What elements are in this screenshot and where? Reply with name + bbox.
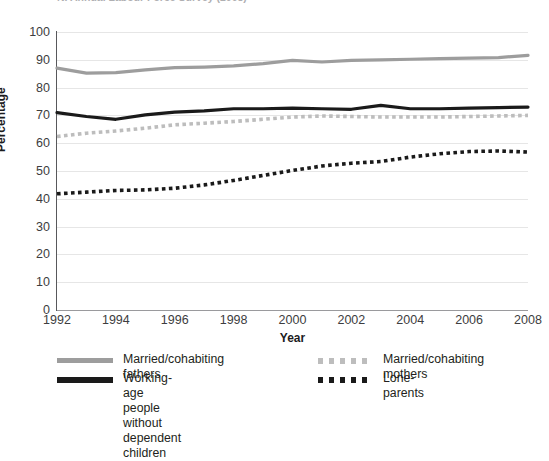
x-tick-label: 1996 [145, 313, 205, 327]
legend-label: Lone-parents [383, 371, 424, 401]
x-tick-label: 2000 [263, 313, 323, 327]
x-tick-label: 2002 [321, 313, 381, 327]
gridline [57, 199, 528, 200]
x-tick-label: 2008 [498, 313, 549, 327]
x-tick-label: 1992 [27, 313, 87, 327]
y-tick-label: 70 [6, 109, 50, 121]
gridline [57, 143, 528, 144]
y-axis-title: Percentage [0, 87, 8, 152]
x-tick-label: 2004 [380, 313, 440, 327]
gridline [57, 171, 528, 172]
gridline [57, 227, 528, 228]
y-tick-label: 10 [6, 276, 50, 288]
plot-area [57, 32, 528, 310]
solid-gray-line-key [57, 358, 113, 363]
dotted-gray-line-key [317, 358, 373, 364]
y-tick-label: 40 [6, 193, 50, 205]
y-tick-label: 20 [6, 248, 50, 260]
gridline [57, 32, 528, 33]
y-axis-line [56, 31, 57, 311]
dotted-black-line-key [317, 377, 373, 383]
gridline [57, 282, 528, 283]
y-tick-label: 90 [6, 54, 50, 66]
legend-label: Working-age people without dependent chi… [123, 371, 181, 461]
x-tick-label: 1998 [204, 313, 264, 327]
chart-title-text: NI Annual Labour Force Survey (2008) [57, 0, 477, 3]
gridline [57, 60, 528, 61]
gridline [57, 88, 528, 89]
chart-title-clipped: NI Annual Labour Force Survey (2008) [57, 0, 477, 3]
y-tick-label: 50 [6, 165, 50, 177]
gridline [57, 115, 528, 116]
y-tick-label: 60 [6, 137, 50, 149]
x-axis-line [57, 310, 528, 311]
gridline [57, 254, 528, 255]
chart-legend: Married/cohabiting fathersWorking-age pe… [57, 352, 537, 412]
solid-black-line-key [57, 377, 113, 383]
y-tick-label: 30 [6, 221, 50, 233]
x-axis-title: Year [57, 331, 528, 345]
y-tick-label: 100 [6, 26, 50, 38]
x-tick-label: 2006 [439, 313, 499, 327]
x-tick-label: 1994 [86, 313, 146, 327]
y-tick-label: 80 [6, 82, 50, 94]
